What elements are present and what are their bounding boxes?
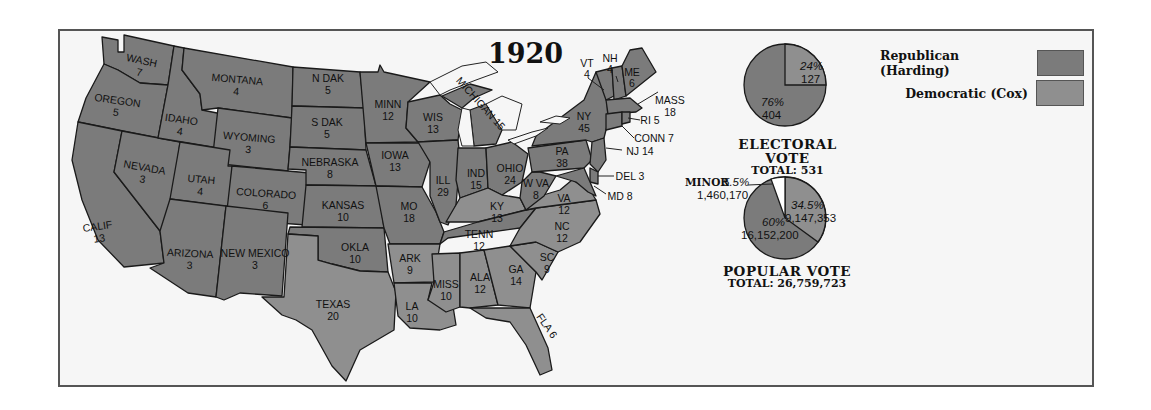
popular-vote-caption: POPULAR VOTE TOTAL: 26,759,723 (712, 264, 862, 290)
svg-text:9,147,353: 9,147,353 (785, 212, 836, 224)
electoral-vote-total: TOTAL: 531 (725, 165, 850, 177)
svg-text:1,460,170: 1,460,170 (697, 189, 748, 201)
state-ny[interactable] (532, 72, 608, 146)
svg-text:DEL 3: DEL 3 (616, 170, 645, 182)
svg-text:127: 127 (801, 73, 820, 85)
svg-text:LA10: LA10 (406, 300, 419, 324)
legend-swatch-republican (1037, 50, 1084, 76)
popular-vote-pie: 34.5% 9,147,353 60% 16,152,200 MINOR 5.5… (685, 176, 836, 259)
legend-swatch-democratic (1036, 80, 1084, 106)
svg-text:RI 5: RI 5 (640, 114, 659, 126)
svg-text:VT4: VT4 (580, 57, 594, 80)
legend-label-democratic: Democratic (Cox) (905, 86, 1028, 101)
svg-text:TENN12: TENN12 (465, 228, 494, 252)
svg-text:NJ 14: NJ 14 (626, 145, 654, 157)
svg-text:16,152,200: 16,152,200 (741, 229, 799, 241)
svg-text:24%: 24% (799, 60, 823, 72)
svg-text:CONN 7: CONN 7 (634, 132, 674, 144)
legend-republican: Republican (Harding) (880, 48, 1084, 78)
svg-text:NC12: NC12 (554, 220, 570, 244)
svg-text:PA38: PA38 (555, 145, 568, 169)
svg-text:MD 8: MD 8 (607, 190, 632, 202)
legend-label-republican: Republican (Harding) (880, 48, 1029, 78)
popular-vote-total: TOTAL: 26,759,723 (712, 278, 862, 290)
svg-text:34.5%: 34.5% (791, 199, 824, 211)
svg-text:76%: 76% (761, 96, 784, 108)
map-title: 1920 (488, 38, 563, 69)
svg-text:5.5%: 5.5% (723, 176, 749, 188)
state-nj[interactable] (590, 138, 606, 172)
state-conn[interactable] (606, 112, 622, 130)
svg-text:60%: 60% (762, 216, 785, 228)
electoral-vote-pie: 24% 127 76% 404 (744, 44, 826, 126)
electoral-vote-caption: ELECTORAL VOTE TOTAL: 531 (725, 137, 850, 177)
svg-text:404: 404 (762, 109, 782, 121)
svg-text:NY45: NY45 (577, 110, 592, 134)
legend-democratic: Democratic (Cox) (880, 80, 1084, 106)
svg-text:ILL29: ILL29 (436, 174, 451, 198)
popular-vote-title: POPULAR VOTE (712, 264, 862, 278)
electoral-vote-title: ELECTORAL VOTE (725, 137, 850, 165)
svg-text:KY13: KY13 (490, 200, 504, 224)
svg-text:GA14: GA14 (508, 263, 523, 287)
svg-text:VA12: VA12 (557, 192, 570, 216)
